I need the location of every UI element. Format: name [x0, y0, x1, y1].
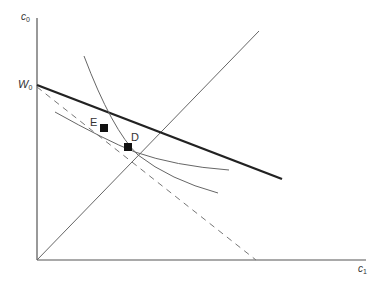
- point-e-label: E: [90, 116, 97, 128]
- budget-line: [37, 85, 282, 179]
- diagram-canvas: E D c0 c1 W0: [0, 0, 383, 287]
- ray-45-degree: [37, 31, 259, 260]
- point-e-marker: [100, 124, 108, 132]
- point-d-label: D: [131, 131, 139, 143]
- indifference-curve-flat: [55, 112, 229, 170]
- intercept-label: W0: [18, 78, 32, 91]
- y-axis-label: c0: [21, 11, 30, 23]
- x-axis-label: c1: [358, 263, 367, 275]
- point-d-marker: [124, 143, 132, 151]
- dashed-budget-line: [37, 87, 256, 260]
